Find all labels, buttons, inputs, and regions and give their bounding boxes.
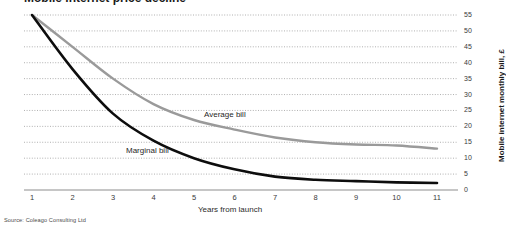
x-tick-label: 6 xyxy=(223,194,247,202)
x-tick-label: 1 xyxy=(20,194,44,202)
chart-figure: Mobile internet price decline 0510152025… xyxy=(0,0,509,244)
series-line-marginal-bill xyxy=(32,15,437,183)
series-line-average-bill xyxy=(32,15,437,149)
y-tick-label: 10 xyxy=(464,154,472,161)
y-tick-label: 45 xyxy=(464,43,472,50)
series-label-marginal-bill: Marginal bill xyxy=(126,146,169,155)
x-tick-label: 2 xyxy=(61,194,85,202)
y-tick-label: 55 xyxy=(464,11,472,18)
x-axis-title: Years from launch xyxy=(0,205,460,214)
series-label-average-bill: Average bill xyxy=(204,110,246,119)
y-tick-label: 30 xyxy=(464,91,472,98)
x-tick-label: 7 xyxy=(263,194,287,202)
x-tick-label: 10 xyxy=(385,194,409,202)
gridlines xyxy=(24,15,458,174)
x-tick-label: 4 xyxy=(142,194,166,202)
y-tick-label: 35 xyxy=(464,75,472,82)
x-tick-label: 3 xyxy=(101,194,125,202)
x-tick-label: 8 xyxy=(304,194,328,202)
y-tick-label: 40 xyxy=(464,59,472,66)
source-note: Source: Coleago Consulting Ltd xyxy=(4,217,86,223)
x-tick-label: 11 xyxy=(425,194,449,202)
y-tick-label: 15 xyxy=(464,138,472,145)
y-tick-label: 50 xyxy=(464,27,472,34)
y-tick-label: 25 xyxy=(464,106,472,113)
y-axis-title: Mobile internet monthly bill, £ xyxy=(493,18,509,193)
y-tick-label: 20 xyxy=(464,122,472,129)
x-tick-label: 5 xyxy=(182,194,206,202)
y-tick-label: 0 xyxy=(464,186,468,193)
y-tick-label: 5 xyxy=(464,170,468,177)
x-tick-label: 9 xyxy=(344,194,368,202)
